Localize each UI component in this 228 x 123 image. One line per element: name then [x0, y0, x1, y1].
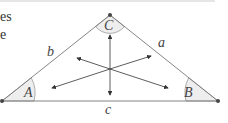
- vertex-a-dot: [0, 99, 4, 103]
- arrow-lower-right-icon: [110, 69, 168, 88]
- side-label-b: b: [47, 44, 54, 59]
- triangle-diagram: A B C b a c: [0, 0, 228, 123]
- vertex-c-dot: [108, 13, 112, 17]
- angle-label-b: B: [184, 85, 193, 100]
- arrow-upper-left-icon: [77, 58, 110, 69]
- arrow-upper-right-icon: [110, 56, 151, 69]
- angle-label-c: C: [104, 18, 114, 33]
- side-label-a: a: [158, 35, 165, 50]
- side-label-c: c: [105, 102, 112, 117]
- side-a: [110, 15, 218, 101]
- angle-label-a: A: [23, 85, 33, 100]
- vertex-b-dot: [216, 99, 220, 103]
- side-b: [2, 15, 110, 101]
- arrow-lower-left-icon: [52, 69, 110, 88]
